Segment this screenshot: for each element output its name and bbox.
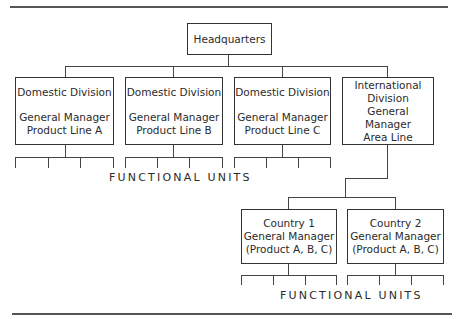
comb-c-stem <box>282 145 283 157</box>
comb-b-stem <box>173 145 174 157</box>
functional-units-label-top: FUNCTIONAL UNITS <box>109 171 252 184</box>
division-title: Domestic Division <box>17 86 111 99</box>
comb-c-tick <box>330 157 331 168</box>
division-title: Domestic Division <box>127 86 221 99</box>
comb-a-stem <box>65 145 66 157</box>
division-drop-b <box>173 66 174 77</box>
division-line: Product Line B <box>136 124 212 137</box>
comb-b-tick <box>125 157 126 168</box>
comb-country2-bar <box>347 275 444 276</box>
comb-country2-tick <box>411 275 412 285</box>
comb-country1-stem <box>288 264 289 275</box>
comb-country1-tick <box>273 275 274 285</box>
comb-country2-stem <box>395 264 396 275</box>
country-title: Country 1 <box>263 217 315 230</box>
country-drop-1 <box>288 197 289 209</box>
domestic-division-b-box: Domestic Division General Manager Produc… <box>125 77 223 145</box>
comb-country2-tick <box>379 275 380 285</box>
domestic-division-a-box: Domestic Division General Manager Produc… <box>15 77 114 145</box>
headquarters-box: Headquarters <box>187 23 272 55</box>
intl-jog <box>345 178 388 179</box>
international-division-box: International Division General Manager A… <box>342 77 434 145</box>
division-line: Product Line A <box>27 124 103 137</box>
country-drop-2 <box>395 197 396 209</box>
comb-c-bar <box>234 157 331 158</box>
country-bus <box>288 197 396 198</box>
division-bus <box>65 66 388 67</box>
division-drop-a <box>65 66 66 77</box>
country-1-box: Country 1 General Manager (Product A, B,… <box>241 209 337 264</box>
comb-country1-tick <box>305 275 306 285</box>
division-title: Domestic Division <box>235 86 329 99</box>
country-manager: General Manager <box>244 230 335 243</box>
comb-c-tick <box>298 157 299 168</box>
comb-b-bar <box>125 157 223 158</box>
division-title-line2: Division <box>367 92 409 105</box>
division-drop-intl <box>387 66 388 77</box>
top-rule <box>10 6 448 8</box>
country-2-box: Country 2 General Manager (Product A, B,… <box>347 209 444 264</box>
division-line: Area Line <box>363 131 412 144</box>
division-title-line1: International <box>354 79 421 92</box>
comb-a-tick <box>113 157 114 168</box>
comb-a-tick <box>15 157 16 168</box>
comb-country2-tick <box>443 275 444 285</box>
division-manager: General Manager <box>237 111 328 124</box>
functional-units-label-bottom: FUNCTIONAL UNITS <box>280 289 423 302</box>
headquarters-label: Headquarters <box>194 33 266 46</box>
comb-a-tick <box>48 157 49 168</box>
comb-country1-tick <box>336 275 337 285</box>
comb-c-tick <box>266 157 267 168</box>
comb-c-tick <box>234 157 235 168</box>
comb-b-tick <box>157 157 158 168</box>
country-products: (Product A, B, C) <box>352 243 438 256</box>
country-title: Country 2 <box>370 217 422 230</box>
intl-stem <box>387 145 388 179</box>
division-manager: General Manager <box>19 111 110 124</box>
country-products: (Product A, B, C) <box>246 243 332 256</box>
domestic-division-c-box: Domestic Division General Manager Produc… <box>234 77 331 145</box>
division-manager: General Manager <box>343 105 433 131</box>
comb-b-tick <box>189 157 190 168</box>
country-manager: General Manager <box>350 230 441 243</box>
comb-b-tick <box>222 157 223 168</box>
hq-connector <box>228 55 229 66</box>
comb-country2-tick <box>347 275 348 285</box>
division-line: Product Line C <box>245 124 321 137</box>
division-drop-c <box>282 66 283 77</box>
bottom-rule <box>12 313 452 315</box>
comb-a-bar <box>15 157 114 158</box>
comb-country1-bar <box>241 275 337 276</box>
comb-a-tick <box>80 157 81 168</box>
division-manager: General Manager <box>129 111 220 124</box>
comb-country1-tick <box>241 275 242 285</box>
intl-drop <box>345 178 346 197</box>
